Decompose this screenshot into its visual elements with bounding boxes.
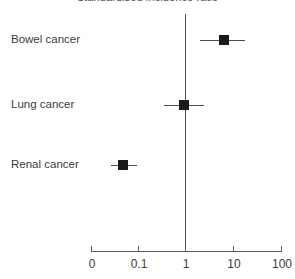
x-axis-tick-1 xyxy=(185,246,186,252)
row-label-renal-cancer: Renal cancer xyxy=(11,159,79,171)
x-axis-line xyxy=(91,251,282,252)
forest-plot-figure: Standardised incidence ratio Bowel cance… xyxy=(0,0,295,279)
point-marker-renal-cancer xyxy=(118,160,128,170)
chart-title: Standardised incidence ratio xyxy=(0,0,295,3)
x-axis-label-0.1: 0.1 xyxy=(131,258,148,270)
row-label-lung-cancer: Lung cancer xyxy=(11,99,74,111)
point-marker-lung-cancer xyxy=(179,100,189,110)
x-axis-label-100: 100 xyxy=(272,258,292,270)
x-axis-label-10: 10 xyxy=(227,258,240,270)
reference-line xyxy=(185,14,186,252)
x-axis-label-1: 1 xyxy=(183,258,190,270)
x-axis-tick-0.1 xyxy=(138,246,139,252)
row-label-bowel-cancer: Bowel cancer xyxy=(11,34,80,46)
x-axis-tick-0 xyxy=(91,246,92,252)
x-axis-tick-10 xyxy=(233,246,234,252)
x-axis-label-0: 0 xyxy=(89,258,96,270)
x-axis-tick-100 xyxy=(281,246,282,252)
point-marker-bowel-cancer xyxy=(219,35,229,45)
